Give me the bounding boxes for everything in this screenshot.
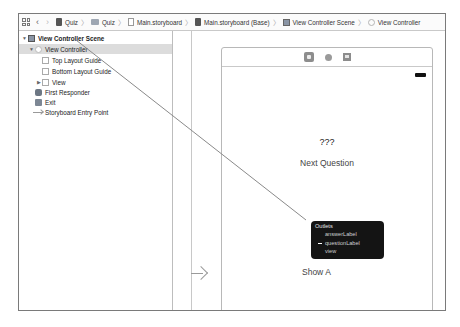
- breadcrumb-separator: 〉: [118, 17, 125, 27]
- layout-guide-icon: [42, 57, 49, 64]
- scene-dock: [222, 48, 432, 67]
- outline-item-view[interactable]: ▶ View: [19, 77, 172, 87]
- breadcrumb-separator: 〉: [81, 17, 88, 27]
- layout-guide-icon: [42, 68, 49, 75]
- outlet-answer-label[interactable]: answerLabel: [315, 230, 380, 239]
- battery-icon: [415, 73, 426, 77]
- storyboard-canvas[interactable]: ??? Next Question ??? Show A: [174, 31, 445, 310]
- exit-icon: [35, 99, 42, 106]
- chevron-left-icon[interactable]: ‹: [36, 18, 39, 26]
- breadcrumb-storyboard-base[interactable]: Main.storyboard (Base) 〉: [195, 17, 282, 27]
- storyboard-file-icon: [128, 18, 134, 26]
- folder-icon: [91, 19, 99, 25]
- storyboard-entry-arrow-head-icon: [194, 266, 208, 280]
- outline-item-view-controller-scene[interactable]: ▼ View Controller Scene: [19, 33, 172, 43]
- scene-icon: [283, 19, 290, 26]
- outlets-hud-title: Outlets: [315, 223, 380, 229]
- outlet-question-label[interactable]: questionLabel: [315, 239, 380, 248]
- breadcrumb-separator: 〉: [273, 17, 280, 27]
- outline-item-first-responder[interactable]: First Responder: [19, 87, 172, 97]
- disclosure-triangle-icon[interactable]: ▼: [28, 46, 35, 52]
- breadcrumb-view-controller-scene[interactable]: View Controller Scene 〉: [283, 17, 368, 27]
- view-controller-icon: [368, 19, 375, 26]
- chevron-right-icon[interactable]: ›: [46, 18, 49, 26]
- breadcrumb-quiz-project[interactable]: Quiz 〉: [56, 17, 91, 27]
- first-responder-icon[interactable]: [325, 54, 332, 61]
- scene-icon: [28, 35, 35, 42]
- outlets-hud: Outlets answerLabel questionLabel view: [311, 221, 384, 259]
- show-answer-button[interactable]: Show A: [302, 267, 331, 277]
- view-controller-scene-frame[interactable]: ??? Next Question ??? Show A: [221, 47, 433, 311]
- outline-item-view-controller[interactable]: ▼ View Controller: [19, 44, 172, 54]
- outline-item-storyboard-entry-point[interactable]: Storyboard Entry Point: [19, 107, 172, 117]
- outline-item-exit[interactable]: Exit: [19, 97, 172, 107]
- outline-item-bottom-layout-guide[interactable]: Bottom Layout Guide: [19, 66, 172, 76]
- breadcrumb-view-controller[interactable]: View Controller: [368, 19, 421, 26]
- xcode-storyboard-window: ‹ › Quiz 〉 Quiz 〉 Main.storyboard 〉 Main…: [18, 13, 446, 311]
- disclosure-triangle-icon[interactable]: ▶: [35, 79, 42, 85]
- project-file-icon: [56, 18, 62, 26]
- related-items-grid-icon[interactable]: [22, 18, 30, 26]
- breadcrumb-separator: 〉: [358, 17, 365, 27]
- outlet-view[interactable]: view: [315, 247, 380, 256]
- document-outline: ▼ View Controller Scene ▼ View Controlle…: [19, 31, 173, 310]
- first-responder-icon: [35, 89, 42, 96]
- breadcrumb-separator: 〉: [185, 17, 192, 27]
- breadcrumb-main-storyboard[interactable]: Main.storyboard 〉: [128, 17, 195, 27]
- view-icon: [42, 79, 49, 86]
- view-controller-icon[interactable]: [304, 52, 314, 62]
- view-controller-icon: [35, 46, 42, 53]
- next-question-button[interactable]: Next Question: [222, 158, 432, 168]
- question-label[interactable]: ???: [222, 137, 432, 147]
- jump-bar: ‹ › Quiz 〉 Quiz 〉 Main.storyboard 〉 Main…: [19, 14, 445, 31]
- disclosure-triangle-icon[interactable]: ▼: [21, 35, 28, 41]
- canvas-guide-line: [191, 31, 192, 310]
- storyboard-base-icon: [195, 18, 201, 26]
- breadcrumb-quiz-folder[interactable]: Quiz 〉: [91, 17, 128, 27]
- exit-icon[interactable]: [343, 53, 351, 61]
- outline-item-top-layout-guide[interactable]: Top Layout Guide: [19, 55, 172, 65]
- entry-point-arrow-icon: [33, 112, 43, 113]
